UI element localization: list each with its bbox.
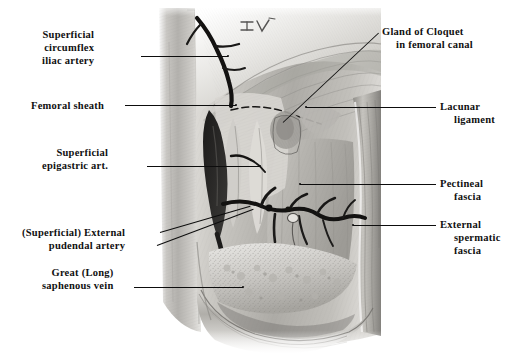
label-line: Superficial — [28, 146, 108, 159]
leader-lacunar-ligament — [306, 107, 436, 108]
leader-femoral-sheath — [125, 105, 236, 106]
label-line: Superficial — [28, 28, 94, 41]
label-line: Great (Long) — [28, 266, 113, 279]
label-line: (Superficial) External — [22, 226, 125, 239]
leader-great-saphenous-vein — [134, 287, 243, 288]
label-line: saphenous vein — [28, 279, 113, 292]
label-line: Femoral sheath — [31, 99, 104, 112]
label-line: epigastric art. — [28, 159, 108, 172]
label-superficial-circumflex-iliac-artery: Superficial circumflex iliac artery — [28, 28, 94, 67]
label-external-spermatic-fascia: External spermatic fascia — [440, 218, 501, 257]
leader-dot-gsv — [242, 286, 244, 288]
label-superficial-external-pudendal-artery: (Superficial) External pudendal artery — [22, 226, 125, 252]
leader-dot-sea — [259, 165, 261, 167]
leader-dot-pectineal — [299, 183, 301, 185]
label-pectineal-fascia: Pectineal fascia — [440, 177, 483, 203]
label-line: External — [440, 218, 501, 231]
leader-superficial-circumflex-iliac-artery — [141, 56, 228, 57]
leader-dot-sci — [227, 55, 229, 57]
label-line: pudendal artery — [22, 239, 125, 252]
label-lacunar-ligament: Lacunar ligament — [440, 100, 495, 126]
anatomical-plate: Superficial circumflex iliac artery Femo… — [0, 0, 521, 361]
leader-superficial-epigastric-artery — [147, 166, 260, 167]
leader-dot-femoral-sheath — [235, 104, 237, 106]
label-line: circumflex — [28, 41, 94, 54]
dissection-illustration — [157, 2, 385, 354]
label-superficial-epigastric-artery: Superficial epigastric art. — [28, 146, 108, 172]
label-line: Lacunar — [440, 100, 495, 113]
label-great-long-saphenous-vein: Great (Long) saphenous vein — [28, 266, 113, 292]
label-line: in femoral canal — [382, 38, 473, 51]
leader-external-spermatic-fascia — [353, 225, 436, 226]
label-line: Gland of Cloquet — [382, 25, 473, 38]
label-line: ligament — [440, 113, 495, 126]
leader-dot-esf — [352, 224, 354, 226]
label-line: fascia — [440, 244, 501, 257]
label-line: iliac artery — [28, 54, 94, 67]
leader-pectineal-fascia — [300, 184, 436, 185]
label-line: spermatic — [440, 231, 501, 244]
label-line: Pectineal — [440, 177, 483, 190]
label-femoral-sheath: Femoral sheath — [31, 99, 104, 112]
leader-dot-lacunar — [305, 106, 307, 108]
label-line: fascia — [440, 190, 483, 203]
label-gland-of-cloquet-in-femoral-canal: Gland of Cloquet in femoral canal — [382, 25, 473, 51]
